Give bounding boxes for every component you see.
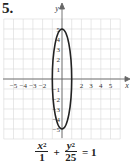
svg-text:3: 3 [57,46,61,54]
svg-text:5: 5 [109,82,113,90]
svg-text:−5: −5 [10,82,18,90]
svg-text:−1: −1 [53,86,61,94]
svg-text:−4: −4 [19,82,27,90]
axes [3,3,130,138]
term-y: y2 25 [65,140,77,163]
term-x: x2 1 [35,140,48,163]
svg-text:−2: −2 [39,82,47,90]
svg-text:4: 4 [99,82,103,90]
svg-text:1: 1 [57,66,61,74]
equals-one: = 1 [82,146,97,158]
svg-text:−3: −3 [29,82,37,90]
svg-text:3: 3 [89,82,93,90]
equation: x2 1 + y2 25 = 1 [0,140,133,163]
svg-text:y: y [54,4,59,13]
svg-text:2: 2 [80,82,84,90]
svg-text:x: x [124,81,129,90]
plus-sign: + [53,146,59,158]
svg-text:2: 2 [57,56,61,64]
ellipse-plot: −5−4−3−2234554321−1−2−3−4−5xy [0,0,133,140]
